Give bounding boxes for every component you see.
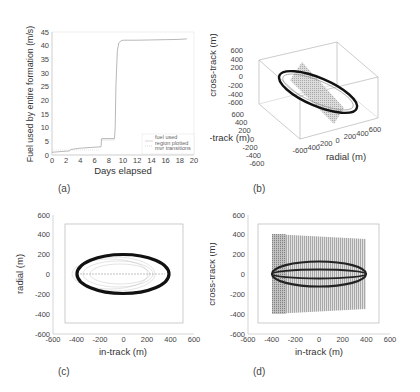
- tick-label: 200: [232, 250, 245, 259]
- tick-label: 400: [164, 335, 177, 344]
- tick-label: 600: [37, 211, 50, 220]
- tick-label: 12: [133, 156, 141, 165]
- tick-label: 2: [64, 156, 68, 165]
- tick-label: 200: [230, 63, 243, 72]
- tick-label: 200: [336, 335, 349, 344]
- panel-b-chart: 6004002000-200-400-600 6004002000-200-40…: [210, 0, 420, 200]
- panel-a-chart: 02468101214161820051015202530354045 fuel…: [0, 0, 210, 200]
- panel-b-ylabel: in-track (m): [210, 132, 250, 143]
- tick-label: 10: [119, 156, 127, 165]
- tick-label: 0: [50, 156, 54, 165]
- tick-label: 5: [45, 137, 49, 146]
- panel-b-caption: (b): [253, 183, 265, 194]
- tick-label: 0: [121, 335, 125, 344]
- panel-d-shaded-region: [272, 234, 366, 314]
- panel-a-ylabel: Fuel used by entire formation (m/s): [25, 26, 35, 162]
- tick-label: 0: [46, 270, 50, 279]
- panel-c-ylabel: radial (m): [14, 254, 25, 294]
- tick-label: 25: [41, 82, 49, 91]
- tick-label: 6: [93, 156, 97, 165]
- panel-d-chart: -600-400-2000200400600-600-400-200020040…: [210, 200, 420, 392]
- panel-d-ylabel: cross-track (m): [210, 242, 217, 305]
- panel-a-caption: (a): [58, 183, 70, 194]
- tick-label: 8: [107, 156, 111, 165]
- tick-label: 600: [384, 335, 397, 344]
- panel-d-xlabel: in-track (m): [295, 346, 343, 357]
- tick-label: -400: [264, 335, 279, 344]
- tick-label: -600: [228, 98, 243, 107]
- panel-b-z-ticks: 6004002000-200-400-600: [228, 46, 243, 107]
- tick-label: 0: [241, 270, 245, 279]
- tick-label: -400: [69, 335, 84, 344]
- tick-label: -600: [35, 330, 50, 339]
- tick-label: -400: [35, 310, 50, 319]
- tick-label: 40: [41, 41, 49, 50]
- tick-label: 35: [41, 55, 49, 64]
- panel-c-plot-box: [65, 224, 183, 323]
- tick-label: -600: [249, 159, 264, 168]
- tick-label: 14: [147, 156, 155, 165]
- tick-label: -200: [92, 335, 107, 344]
- panel-c-caption: (c): [58, 366, 70, 377]
- tick-label: -200: [228, 81, 243, 90]
- tick-label: -600: [230, 330, 245, 339]
- tick-label: 45: [41, 28, 49, 37]
- tick-label: 4: [78, 156, 82, 165]
- tick-label: -400: [230, 310, 245, 319]
- panel-c-chart: -600-400-2000200400600-600-400-200020040…: [0, 200, 210, 392]
- tick-label: 400: [37, 230, 50, 239]
- tick-label: 200: [344, 132, 357, 141]
- tick-label: 0: [335, 136, 339, 145]
- panel-b-xlabel: radial (m): [326, 151, 366, 162]
- tick-label: 600: [369, 125, 382, 134]
- tick-label: 20: [190, 156, 198, 165]
- tick-label: 0: [317, 335, 321, 344]
- tick-label: 400: [356, 129, 369, 138]
- tick-label: 16: [161, 156, 169, 165]
- panel-c-xlabel: in-track (m): [99, 346, 147, 357]
- tick-label: 200: [141, 335, 154, 344]
- tick-label: -200: [230, 290, 245, 299]
- tick-label: 600: [230, 46, 243, 55]
- panel-d-caption: (d): [253, 366, 265, 377]
- tick-label: 400: [232, 230, 245, 239]
- legend-mvr-transitions: mvr transitions: [155, 145, 191, 151]
- panel-b-zlabel: cross-track (m): [210, 33, 218, 96]
- tick-label: 200: [37, 250, 50, 259]
- tick-label: 400: [360, 335, 373, 344]
- tick-label: -200: [35, 290, 50, 299]
- tick-label: 400: [230, 55, 243, 64]
- tick-label: 20: [41, 96, 49, 105]
- tick-label: 0: [239, 72, 243, 81]
- panel-d-dense-region: [272, 234, 286, 314]
- tick-label: 0: [45, 151, 49, 160]
- tick-label: -200: [288, 335, 303, 344]
- tick-label: 10: [41, 123, 49, 132]
- tick-label: 600: [188, 335, 201, 344]
- panel-c-ticks: -600-400-2000200400600-600-400-200020040…: [35, 211, 200, 345]
- tick-label: -400: [228, 90, 243, 99]
- tick-label: 600: [232, 211, 245, 220]
- tick-label: -200: [317, 139, 332, 148]
- tick-label: 18: [176, 156, 184, 165]
- tick-label: 30: [41, 69, 49, 78]
- tick-label: 15: [41, 110, 49, 119]
- panel-a-xlabel: Days elapsed: [94, 165, 152, 176]
